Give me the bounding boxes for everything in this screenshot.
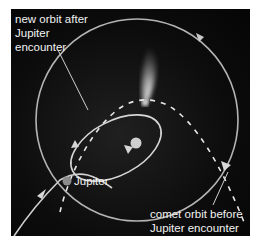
- comet-before-label-line2: Jupiter encounter: [150, 221, 243, 235]
- new-orbit-label-line1: new orbit after: [15, 12, 88, 26]
- comet-before-label-line1: comet orbit before: [150, 207, 243, 221]
- new-orbit-leader-line: [58, 50, 88, 110]
- new-orbit-label-line3: encounter: [15, 40, 88, 54]
- ellipse-arrow-upper-icon: [71, 140, 79, 148]
- orbit-direction-arrow-icon: [196, 33, 204, 42]
- jupiter-label: Jupiter: [74, 174, 109, 188]
- new-orbit-label-line2: Jupiter: [15, 26, 88, 40]
- jupiter-marker: [63, 177, 72, 186]
- incoming-arrow-icon: [37, 189, 46, 199]
- comet-orbit-before-label: comet orbit before Jupiter encounter: [150, 207, 243, 235]
- sun: [131, 138, 142, 149]
- new-orbit-label: new orbit after Jupiter encounter: [15, 12, 88, 54]
- comet-tail: [141, 40, 157, 106]
